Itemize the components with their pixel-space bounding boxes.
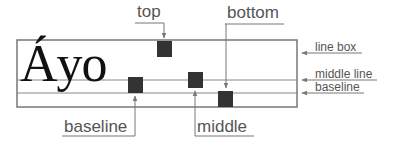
top-aligned-box [157,41,172,57]
top-callout-line [135,23,164,38]
baseline-side-label: baseline [315,80,360,94]
bottom-aligned-box [218,91,233,107]
middle-line-label: middle line [315,67,372,81]
top-label: top [137,2,161,22]
bottom-callout-line [225,24,226,88]
baseline-aligned-box [128,77,143,93]
sample-text: Áyo [20,38,107,90]
line-box-label: line box [315,40,356,54]
middle-aligned-box [188,72,203,88]
bottom-label: bottom [227,3,279,23]
baseline-label: baseline [64,117,127,137]
middle-label: middle [197,117,247,137]
